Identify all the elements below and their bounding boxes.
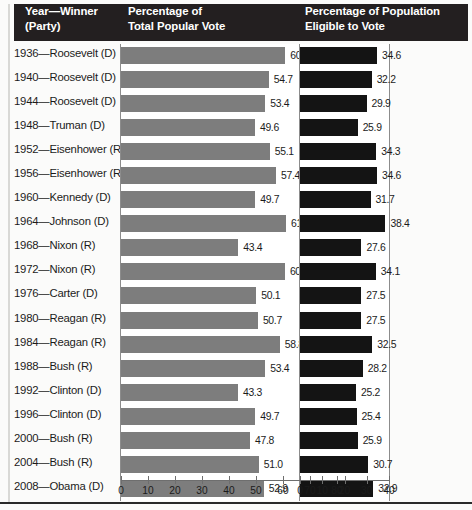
chart-row: 1976—Carter (D)50.127.5 (0, 284, 472, 308)
bar-total-popular-vote (121, 384, 238, 401)
column-header-line: Percentage of Population (305, 4, 472, 19)
axis-tick-label: 30 (196, 485, 207, 496)
axis-tick (389, 480, 390, 484)
axis-tick (229, 480, 230, 484)
bar-value-eligible-population: 27.5 (366, 290, 385, 301)
bar-eligible-population (300, 384, 356, 401)
bar-total-popular-vote (121, 215, 286, 232)
axis-tick-inner (389, 476, 390, 480)
bar-total-popular-vote (121, 191, 255, 208)
bar-value-eligible-population: 25.4 (362, 411, 381, 422)
bar-eligible-population (300, 408, 357, 425)
panel-eligible-population: 29.9 (299, 92, 468, 116)
bar-value-total-popular-vote: 43.4 (243, 242, 262, 253)
bar-eligible-population (300, 119, 358, 136)
bar-total-popular-vote (121, 360, 265, 377)
column-header-line: Eligible to Vote (305, 19, 472, 34)
row-label-year-winner: 1988—Bush (R) (14, 360, 118, 372)
bar-value-total-popular-vote: 53.4 (270, 363, 289, 374)
panel-total-popular-vote: 47.8 (120, 429, 297, 453)
chart-row: 1968—Nixon (R)43.427.6 (0, 236, 472, 260)
axis-tick-inner (283, 476, 284, 480)
chart-row: 1960—Kennedy (D)49.731.7 (0, 188, 472, 212)
bar-eligible-population (300, 191, 371, 208)
axis-tick-label: 30 (361, 485, 372, 496)
bar-value-total-popular-vote: 43.3 (243, 387, 262, 398)
panel-eligible-population: 34.6 (299, 44, 468, 68)
panel-total-popular-vote: 49.6 (120, 116, 297, 140)
axis-tick (121, 480, 122, 484)
bar-eligible-population (300, 432, 358, 449)
panel-total-popular-vote: 54.7 (120, 68, 297, 92)
axis-tick-inner (202, 476, 203, 480)
bar-total-popular-vote (121, 456, 259, 473)
panel-total-popular-vote: 61.1 (120, 212, 297, 236)
panel-total-popular-vote: 53.4 (120, 357, 297, 381)
axis-tick-inner (322, 476, 323, 480)
axis-tick-inner (300, 476, 301, 480)
bar-total-popular-vote (121, 143, 270, 160)
chart-row: 1972—Nixon (R)60.734.1 (0, 260, 472, 284)
chart-row: 1948—Truman (D)49.625.9 (0, 116, 472, 140)
bar-value-eligible-population: 30.7 (373, 459, 392, 470)
axis-tick-inner (175, 476, 176, 480)
row-label-year-winner: 1976—Carter (D) (14, 287, 118, 299)
axis-tick-label: 0 (297, 485, 303, 496)
panel-eligible-population: 34.6 (299, 164, 468, 188)
row-label-year-winner: 1968—Nixon (R) (14, 239, 118, 251)
bar-eligible-population (300, 143, 376, 160)
axis-tick (345, 480, 346, 484)
panel-total-popular-vote: 49.7 (120, 188, 297, 212)
row-label-year-winner: 1952—Eisenhower (R) (14, 143, 118, 155)
bar-value-eligible-population: 34.6 (382, 170, 401, 181)
panel-eligible-population: 28.2 (299, 357, 468, 381)
axis-tick (175, 480, 176, 484)
bar-value-eligible-population: 28.2 (368, 363, 387, 374)
bar-value-total-popular-vote: 50.1 (261, 290, 280, 301)
bar-total-popular-vote (121, 119, 255, 136)
bar-total-popular-vote (121, 47, 285, 64)
bar-eligible-population (300, 71, 372, 88)
bar-value-total-popular-vote: 49.7 (260, 411, 279, 422)
axis-tick-inner (229, 476, 230, 480)
bar-total-popular-vote (121, 336, 280, 353)
column-header-line: Total Popular Vote (128, 19, 288, 34)
bar-value-total-popular-vote: 49.7 (260, 194, 279, 205)
bar-eligible-population (300, 167, 377, 184)
bar-value-total-popular-vote: 51.0 (264, 459, 283, 470)
chart-row: 1992—Clinton (D)43.325.2 (0, 381, 472, 405)
panel-eligible-population: 31.7 (299, 188, 468, 212)
chart-row: 1944—Roosevelt (D)53.429.9 (0, 92, 472, 116)
chart-row: 1980—Reagan (R)50.727.5 (0, 309, 472, 333)
bar-value-total-popular-vote: 50.7 (263, 315, 282, 326)
bar-value-eligible-population: 34.1 (381, 266, 400, 277)
bar-value-total-popular-vote: 47.8 (255, 435, 274, 446)
bar-value-eligible-population: 32.2 (377, 74, 396, 85)
bar-total-popular-vote (121, 312, 258, 329)
panel-eligible-population: 30.7 (299, 453, 468, 477)
panel-total-popular-vote: 50.7 (120, 309, 297, 333)
bar-value-eligible-population: 27.6 (366, 242, 385, 253)
axis-tick-label: 10 (317, 485, 328, 496)
bar-value-eligible-population: 29.9 (372, 98, 391, 109)
row-label-year-winner: 1972—Nixon (R) (14, 263, 118, 275)
bar-eligible-population (300, 239, 361, 256)
panel-total-popular-vote: 51.0 (120, 453, 297, 477)
row-label-year-winner: 1992—Clinton (D) (14, 384, 118, 396)
bar-value-total-popular-vote: 55.1 (275, 146, 294, 157)
bar-total-popular-vote (121, 432, 250, 449)
bar-eligible-population (300, 47, 377, 64)
panel-total-popular-vote: 53.4 (120, 92, 297, 116)
axis-tick (202, 480, 203, 484)
axis-tick (322, 480, 323, 484)
bar-total-popular-vote (121, 71, 269, 88)
bar-value-total-popular-vote: 49.6 (260, 122, 279, 133)
bar-eligible-population (300, 95, 367, 112)
panel-eligible-population: 25.9 (299, 429, 468, 453)
panel-total-popular-vote: 58.8 (120, 333, 297, 357)
bar-value-total-popular-vote: 53.4 (270, 98, 289, 109)
row-label-year-winner: 1948—Truman (D) (14, 119, 118, 131)
axis-tick-inner (256, 476, 257, 480)
chart-rows: 1936—Roosevelt (D)60.834.61940—Roosevelt… (0, 44, 472, 480)
axis-tick-inner (367, 476, 368, 480)
